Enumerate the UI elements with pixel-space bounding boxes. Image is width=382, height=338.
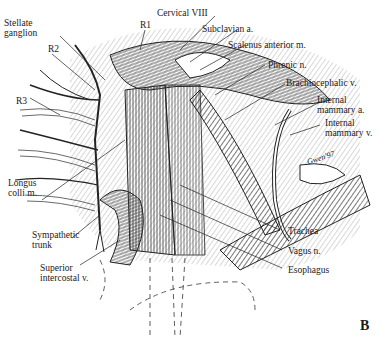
label-vagus-n: Vagus n. bbox=[288, 246, 321, 256]
label-stellate-ganglion-line2: ganglion bbox=[4, 28, 37, 38]
dashed-outlines bbox=[100, 258, 255, 338]
label-cervical-viii: Cervical VIII bbox=[157, 8, 208, 18]
label-sympathetic-trunk-line1: Sympathetic bbox=[32, 230, 80, 240]
label-internal-mammary-a-line2: mammary a. bbox=[317, 105, 364, 115]
anatomical-illustration: Gwen'97 Stellate ganglion R1 R2 R3 Cervi… bbox=[0, 0, 382, 338]
label-r2: R2 bbox=[48, 44, 59, 54]
panel-letter: B bbox=[360, 318, 369, 334]
label-sympathetic-trunk-line2: trunk bbox=[32, 240, 52, 250]
label-scalenus-anterior-m: Scalenus anterior m. bbox=[228, 40, 306, 50]
label-brachiocephalic-v: Brachiocephalic v. bbox=[286, 78, 357, 88]
label-longus-colli-line2: colli m. bbox=[8, 188, 37, 198]
label-stellate-ganglion-line1: Stellate bbox=[4, 18, 33, 28]
label-longus-colli-line1: Longus bbox=[8, 178, 37, 188]
label-superior-intercostal-v-line1: Superior bbox=[40, 263, 73, 273]
label-trachea: Trachea bbox=[288, 226, 318, 236]
label-subclavian-a: Subclavian a. bbox=[202, 24, 253, 34]
label-phrenic-n: Phrenic n. bbox=[268, 60, 307, 70]
label-r3: R3 bbox=[16, 96, 27, 106]
label-esophagus: Esophagus bbox=[288, 265, 329, 275]
label-internal-mammary-a-line1: Internal bbox=[317, 95, 347, 105]
label-superior-intercostal-v-line2: intercostal v. bbox=[40, 273, 88, 283]
label-r1: R1 bbox=[140, 20, 151, 30]
label-internal-mammary-v-line2: mammary v. bbox=[325, 128, 372, 138]
label-internal-mammary-v-line1: Internal bbox=[325, 118, 355, 128]
